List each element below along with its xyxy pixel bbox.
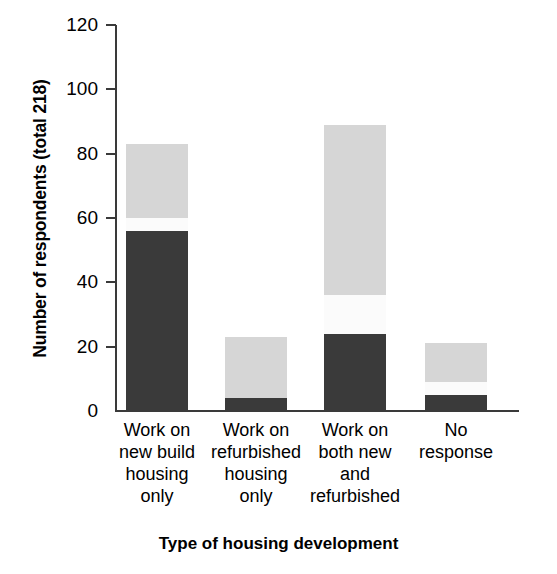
x-category-label-4: No response (394, 420, 518, 464)
bar-3 (324, 125, 386, 411)
bar-segment-dark-segment (225, 398, 287, 411)
bar-2 (225, 337, 287, 411)
y-tick-label: 100 (0, 79, 98, 98)
y-tick-mark (106, 153, 116, 155)
bar-segment-dark-segment (324, 334, 386, 411)
y-tick-label: 120 (0, 15, 98, 34)
y-tick-label: 40 (0, 272, 98, 291)
bar-segment-light-segment (126, 144, 188, 218)
bar-segment-dark-segment (126, 231, 188, 411)
y-tick-label: 80 (0, 144, 98, 163)
bar-segment-white-segment (425, 382, 487, 395)
y-tick-mark (106, 88, 116, 90)
stacked-bar-chart: Number of respondents (total 218) 020406… (0, 0, 557, 574)
y-tick-label: 0 (0, 401, 98, 420)
y-tick-mark (106, 346, 116, 348)
y-tick-mark (106, 281, 116, 283)
y-tick-label: 20 (0, 337, 98, 356)
y-tick-mark (106, 217, 116, 219)
bar-segment-white-segment (126, 218, 188, 231)
bar-segment-dark-segment (425, 395, 487, 411)
y-tick-label: 60 (0, 208, 98, 227)
bar-segment-white-segment (324, 295, 386, 334)
x-axis-title: Type of housing development (0, 534, 557, 554)
bar-segment-light-segment (425, 343, 487, 382)
bar-segment-light-segment (225, 337, 287, 398)
y-tick-mark (106, 24, 116, 26)
bar-1 (126, 144, 188, 411)
bar-4 (425, 343, 487, 411)
bar-segment-light-segment (324, 125, 386, 295)
